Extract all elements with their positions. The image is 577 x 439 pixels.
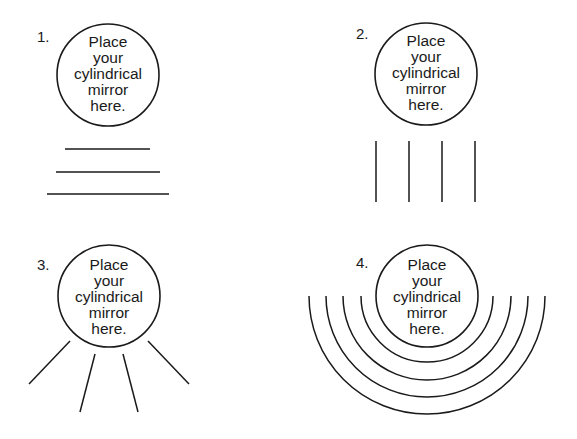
- label-line: mirror: [57, 82, 159, 98]
- panel-number-4: 4.: [356, 254, 369, 271]
- label-line: Place: [58, 257, 160, 273]
- radial-line: [123, 354, 138, 412]
- label-line: here.: [376, 321, 478, 337]
- mirror-placement-label-4: Place your cylindrical mirror here.: [376, 257, 478, 337]
- radial-line: [29, 341, 70, 384]
- label-line: Place: [57, 34, 159, 50]
- panel-number-2: 2.: [356, 25, 369, 42]
- radial-line: [80, 354, 95, 412]
- label-line: mirror: [376, 305, 478, 321]
- label-line: here.: [57, 98, 159, 114]
- mirror-placement-label-1: Place your cylindrical mirror here.: [57, 34, 159, 114]
- label-line: your: [376, 273, 478, 289]
- panel-number-1: 1.: [37, 28, 50, 45]
- label-line: cylindrical: [58, 289, 160, 305]
- mirror-placement-label-2: Place your cylindrical mirror here.: [375, 33, 477, 113]
- label-line: cylindrical: [376, 289, 478, 305]
- label-line: your: [375, 49, 477, 65]
- label-line: cylindrical: [375, 65, 477, 81]
- label-line: your: [57, 50, 159, 66]
- radial-line: [148, 341, 189, 384]
- mirror-placement-label-3: Place your cylindrical mirror here.: [58, 257, 160, 337]
- label-line: here.: [58, 321, 160, 337]
- label-line: mirror: [375, 81, 477, 97]
- label-line: cylindrical: [57, 66, 159, 82]
- label-line: Place: [376, 257, 478, 273]
- label-line: Place: [375, 33, 477, 49]
- panel-number-3: 3.: [37, 256, 50, 273]
- label-line: here.: [375, 97, 477, 113]
- label-line: your: [58, 273, 160, 289]
- label-line: mirror: [58, 305, 160, 321]
